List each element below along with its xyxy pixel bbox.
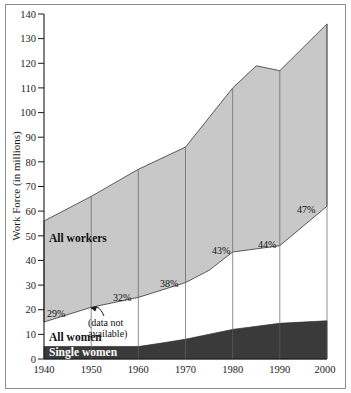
work-force-area-chart: 0 10 20 30 40 50 60 70 80 90 100 110 120… [0, 0, 351, 393]
y-tick-label-80: 80 [26, 157, 37, 168]
chart-figure: 0 10 20 30 40 50 60 70 80 90 100 110 120… [0, 0, 351, 393]
pct-label-1940: 29% [47, 308, 65, 319]
x-tick-label-2000: 2000 [315, 364, 336, 375]
y-tick-label-60: 60 [26, 206, 37, 217]
y-tick-label-10: 10 [26, 329, 37, 340]
pct-label-1980: 43% [212, 245, 230, 256]
y-tick-label-40: 40 [26, 255, 37, 266]
y-tick-label-120: 120 [20, 58, 36, 69]
x-tick-label-1970: 1970 [175, 364, 196, 375]
x-tick-label-1990: 1990 [269, 364, 290, 375]
note-line-2: available) [88, 328, 127, 340]
y-tick-label-130: 130 [20, 33, 36, 44]
y-tick-label-70: 70 [26, 181, 37, 192]
pct-label-1960: 32% [113, 292, 131, 303]
x-tick-label-1980: 1980 [222, 364, 243, 375]
y-tick-label-30: 30 [26, 280, 37, 291]
y-tick-label-140: 140 [20, 9, 36, 20]
pct-label-1970: 38% [160, 278, 178, 289]
x-tick-label-1950: 1950 [81, 364, 102, 375]
series-label-all-workers: All workers [49, 232, 107, 244]
y-tick-label-110: 110 [21, 83, 36, 94]
pct-label-1990: 44% [258, 239, 276, 250]
y-tick-label-20: 20 [26, 304, 37, 315]
y-tick-label-90: 90 [26, 132, 37, 143]
pct-label-2000: 47% [297, 204, 315, 215]
series-label-single-women: Single women [49, 346, 118, 359]
y-axis-ticks [38, 14, 44, 359]
x-tick-label-1940: 1940 [34, 364, 55, 375]
y-tick-label-50: 50 [26, 231, 37, 242]
y-axis-title: Work Force (in millions) [10, 131, 23, 241]
y-tick-label-100: 100 [20, 107, 36, 118]
x-tick-label-1960: 1960 [128, 364, 149, 375]
